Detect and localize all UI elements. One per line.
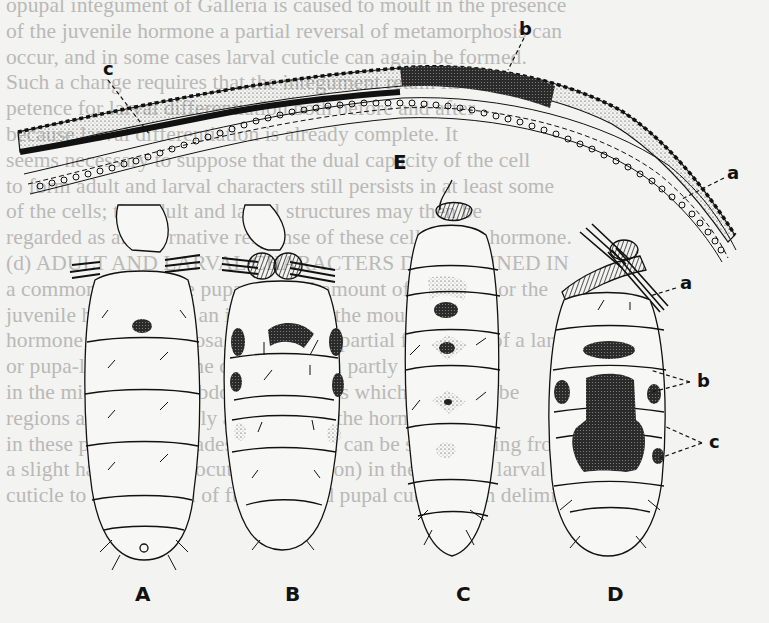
figure-illustration [0,0,769,623]
larva-a [70,205,200,570]
panel-label-c: C [456,584,471,604]
label-d-a: a [680,274,692,292]
label-d-c: c [709,433,720,451]
label-d-b: b [697,372,710,390]
scanned-book-page: opupal integument of Galleria is caused … [0,0,769,623]
panel-label-d: D [607,584,624,604]
larva-c [405,180,500,556]
panel-label-a: A [135,584,150,604]
label-e-a: a [727,164,739,182]
label-e-b: b [519,20,532,38]
label-e-c: c [103,60,114,78]
larva-b [222,205,344,550]
panel-label-e: E [393,152,407,172]
panel-label-b: B [285,584,300,604]
